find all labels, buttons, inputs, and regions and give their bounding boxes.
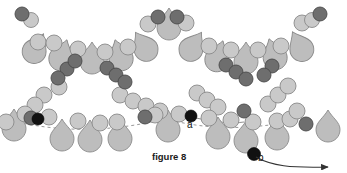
light-bead bbox=[289, 103, 305, 119]
drop-bead bbox=[316, 110, 340, 142]
light-bead bbox=[250, 42, 266, 58]
light-bead bbox=[92, 115, 108, 131]
point-label-a: a bbox=[187, 119, 193, 130]
dark-bead bbox=[313, 7, 327, 21]
black-bead bbox=[32, 113, 44, 125]
light-bead bbox=[171, 106, 187, 122]
beading-pattern-diagram bbox=[0, 0, 347, 173]
light-bead bbox=[0, 114, 14, 130]
dark-bead bbox=[151, 10, 165, 24]
light-bead bbox=[273, 38, 289, 54]
dark-bead bbox=[299, 117, 313, 131]
figure-caption: figure 8 bbox=[152, 151, 186, 162]
light-bead bbox=[223, 42, 239, 58]
light-bead bbox=[280, 78, 296, 94]
light-bead bbox=[46, 35, 62, 51]
light-bead bbox=[201, 110, 217, 126]
light-bead bbox=[70, 113, 86, 129]
dark-bead bbox=[237, 104, 251, 118]
dark-bead bbox=[51, 71, 65, 85]
light-bead bbox=[109, 114, 125, 130]
dark-bead bbox=[15, 7, 29, 21]
light-bead bbox=[30, 34, 46, 50]
light-bead bbox=[201, 38, 217, 54]
point-label-b: b bbox=[258, 152, 264, 163]
light-bead bbox=[97, 44, 113, 60]
dark-bead bbox=[170, 10, 184, 24]
dark-bead bbox=[68, 54, 82, 68]
light-bead bbox=[120, 39, 136, 55]
light-bead bbox=[223, 112, 239, 128]
thread-direction-arrow bbox=[256, 157, 328, 167]
dark-bead bbox=[118, 75, 132, 89]
dark-bead bbox=[138, 110, 152, 124]
dark-bead bbox=[239, 72, 253, 86]
figure-container: figure 8 a b bbox=[0, 0, 347, 173]
dark-bead bbox=[257, 68, 271, 82]
